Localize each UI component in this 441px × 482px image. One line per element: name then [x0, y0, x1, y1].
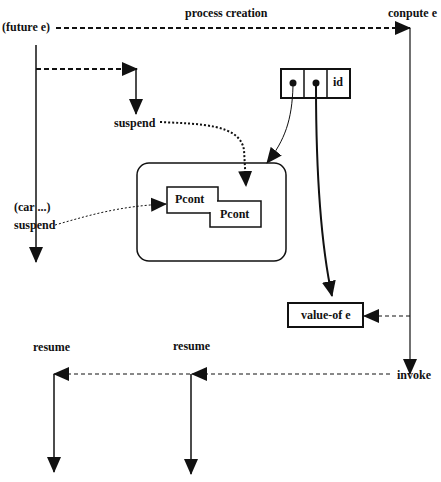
pcont-1-label: Pcont — [175, 193, 204, 205]
suspend-left-label: suspend — [14, 219, 55, 231]
suspend-top-arrow — [160, 122, 246, 186]
process-creation-label: process creation — [185, 7, 268, 19]
suspend-left-arrow — [55, 204, 166, 225]
future-label: (future e) — [2, 21, 50, 33]
diagram-canvas — [0, 0, 441, 482]
car-label: (car ...) — [14, 201, 50, 213]
pointer-dot-1 — [290, 80, 297, 87]
invoke-label: invoke — [397, 369, 431, 381]
compute-label: conpute e — [388, 7, 437, 19]
pointer-dot-2 — [313, 80, 320, 87]
resume-mid-label: resume — [173, 340, 210, 352]
pointer-to-value — [316, 86, 332, 296]
resume-left-label: resume — [33, 341, 70, 353]
record-id-label: id — [333, 76, 343, 88]
suspend-top-label: suspend — [114, 117, 155, 129]
pcont-2-label: Pcont — [220, 208, 249, 220]
value-of-label: value-of e — [301, 309, 351, 321]
